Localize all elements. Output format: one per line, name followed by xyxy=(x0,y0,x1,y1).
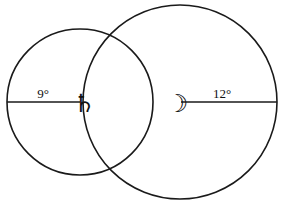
astrology-diagram: 9° 12° ♄ ☽ xyxy=(0,0,284,208)
right-degree-label: 12° xyxy=(213,86,231,101)
diagram-canvas: 9° 12° ♄ ☽ xyxy=(0,0,284,208)
left-degree-label: 9° xyxy=(37,86,49,101)
moon-symbol: ☽ xyxy=(166,89,188,118)
saturn-symbol: ♄ xyxy=(73,89,95,118)
